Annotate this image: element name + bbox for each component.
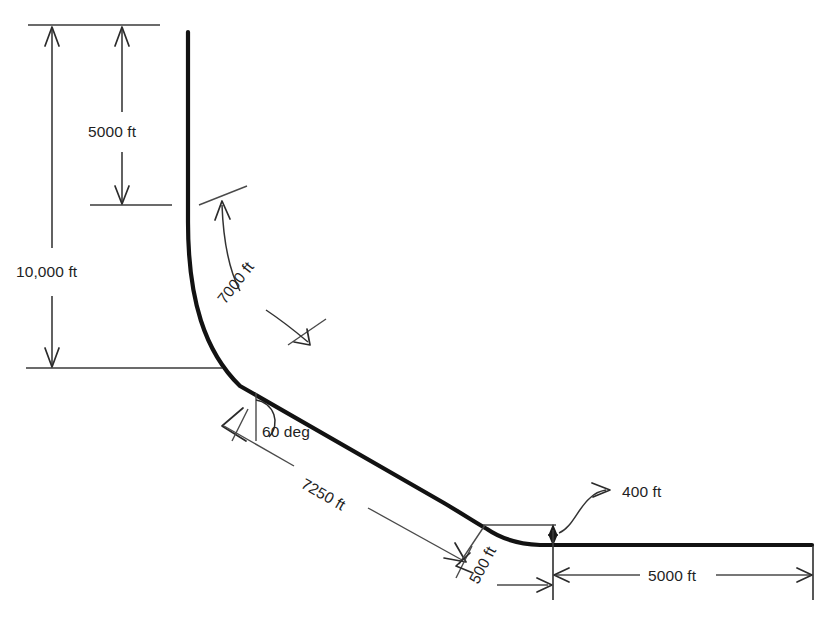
descent-length-dim-line-lower xyxy=(368,508,462,560)
upper-altitude-label: 5000 ft xyxy=(88,123,137,140)
descent-length-tick-start xyxy=(232,409,248,441)
total-altitude-label: 10,000 ft xyxy=(16,263,78,280)
upper-radius-leader-lower xyxy=(266,310,308,342)
descent-angle-label: 60 deg xyxy=(262,423,310,440)
descent-length-label: 7250 ft xyxy=(299,475,350,514)
flight-path-curve xyxy=(188,32,812,545)
flare-height-leader xyxy=(559,490,606,533)
upper-radius-label: 7000 ft xyxy=(214,258,257,307)
flare-height-label: 400 ft xyxy=(622,483,662,500)
diagram-canvas: 10,000 ft 5000 ft 7000 ft 60 deg xyxy=(0,0,835,630)
runway-distance-label: 5000 ft xyxy=(648,567,697,584)
technical-diagram: 10,000 ft 5000 ft 7000 ft 60 deg xyxy=(0,0,835,630)
